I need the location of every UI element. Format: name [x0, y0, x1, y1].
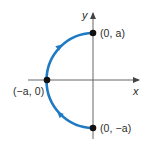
point-top [90, 30, 97, 37]
y-axis-label: y [82, 10, 88, 21]
point-bottom [90, 125, 97, 132]
point-left-label: (−a, 0) [13, 86, 44, 97]
point-top-label: (0, a) [100, 28, 125, 39]
point-left [44, 77, 51, 84]
point-bottom-label: (0, −a) [100, 123, 131, 134]
semicircle-diagram: y x (0, a) (−a, 0) (0, −a) [0, 0, 152, 151]
x-axis-label: x [133, 86, 139, 97]
